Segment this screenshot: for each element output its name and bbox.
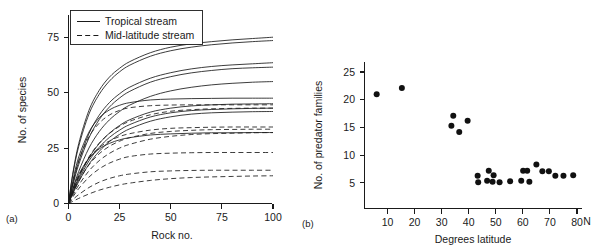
panel-a-ytick-25: 25 [47, 142, 59, 154]
panel-a-species-accumulation: 0 25 50 75 0 25 50 75 100 Rock no. No. o… [0, 0, 300, 252]
scatter-point [570, 172, 576, 178]
scatter-point [497, 179, 503, 185]
scatter-point [374, 91, 380, 97]
panel-b-y-ticks [360, 72, 365, 183]
panel-a-legend: Tropical stream Mid-latitude stream [71, 11, 203, 45]
panel-b-x-ticks [388, 209, 578, 214]
scatter-point [560, 173, 566, 179]
panel-a-xtick-50: 50 [165, 211, 177, 223]
panel-b-ytick-15: 15 [343, 121, 355, 133]
panel-b-xtick-label-20: 20 [409, 216, 421, 228]
panel-a-ytick-0: 0 [53, 197, 59, 209]
scatter-point [533, 162, 539, 168]
panel-b-xtick-label-80: 80 [571, 216, 583, 228]
panel-b-y-axis-title: No. of predator families [312, 81, 324, 190]
panel-b-ytick-25: 25 [343, 66, 355, 78]
scatter-point [450, 113, 456, 119]
panel-a-ytick-50: 50 [47, 86, 59, 98]
scatter-point [475, 179, 481, 185]
scatter-point [552, 173, 558, 179]
panel-a-label: (a) [6, 213, 18, 224]
panel-b-ytick-20: 20 [343, 93, 355, 105]
panel-a-y-axis-title: No. of species [16, 77, 28, 144]
panel-b-xtick-label-10: 10 [382, 216, 394, 228]
accumulation-curve-tropical-8 [69, 108, 274, 203]
legend-label-midlatitude: Mid-latitude stream [105, 29, 195, 41]
panel-a-svg: 0 25 50 75 0 25 50 75 100 Rock no. No. o… [0, 0, 300, 252]
panel-b-point-group [374, 85, 577, 185]
scatter-point [524, 168, 530, 174]
accumulation-curve-midlat-8 [69, 176, 274, 204]
scatter-point [546, 168, 552, 174]
panel-a-xtick-100: 100 [264, 211, 282, 223]
panel-b-x-tick-labels: 1020304050607080 [382, 216, 583, 228]
panel-b-label: (b) [302, 218, 314, 229]
legend-label-tropical: Tropical stream [105, 15, 177, 27]
panel-b-predator-latitude-scatter: 5 10 15 20 25 1020304050607080 N Degrees… [300, 0, 600, 252]
accumulation-curve-midlat-4 [69, 129, 274, 203]
panel-b-svg: 5 10 15 20 25 1020304050607080 N Degrees… [300, 0, 600, 252]
accumulation-curve-midlat-7 [69, 170, 274, 203]
panel-b-ytick-5: 5 [349, 177, 355, 189]
scatter-point [475, 173, 481, 179]
scatter-point [448, 123, 454, 129]
scatter-point [484, 178, 490, 184]
panel-b-x-axis-title: Degrees latitude [435, 233, 512, 245]
panel-a-y-ticks [64, 37, 69, 203]
scatter-point [491, 172, 497, 178]
panel-b-xtick-label-50: 50 [490, 216, 502, 228]
panel-b-xtick-label-30: 30 [436, 216, 448, 228]
scatter-point [465, 118, 471, 124]
accumulation-curve-midlat-2 [69, 108, 274, 203]
scatter-point [399, 85, 405, 91]
panel-a-x-axis-title: Rock no. [151, 229, 192, 241]
accumulation-curve-tropical-2 [69, 41, 274, 204]
panel-b-x-axis-suffix: N [583, 215, 591, 227]
scatter-point [526, 179, 532, 185]
scatter-point [507, 178, 513, 184]
panel-a-xtick-25: 25 [114, 211, 126, 223]
accumulation-curve-midlat-6 [69, 152, 274, 203]
panel-b-xtick-label-40: 40 [463, 216, 475, 228]
panel-a-xtick-0: 0 [66, 211, 72, 223]
figure-container: 0 25 50 75 0 25 50 75 100 Rock no. No. o… [0, 0, 600, 252]
scatter-point [539, 168, 545, 174]
scatter-point [490, 179, 496, 185]
accumulation-curve-tropical-4 [69, 67, 274, 203]
panel-b-ytick-10: 10 [343, 149, 355, 161]
accumulation-curve-tropical-5 [69, 82, 274, 204]
panel-a-curve-group [69, 37, 274, 203]
accumulation-curve-tropical-9 [69, 111, 274, 203]
accumulation-curve-midlat-3 [69, 127, 274, 204]
scatter-point [456, 129, 462, 135]
panel-b-xtick-label-60: 60 [517, 216, 529, 228]
panel-b-xtick-label-70: 70 [544, 216, 556, 228]
scatter-point [518, 178, 524, 184]
panel-b-axes [365, 62, 583, 209]
panel-a-x-ticks [69, 204, 274, 209]
panel-a-xtick-75: 75 [216, 211, 228, 223]
scatter-point [486, 168, 492, 174]
panel-a-ytick-75: 75 [47, 31, 59, 43]
